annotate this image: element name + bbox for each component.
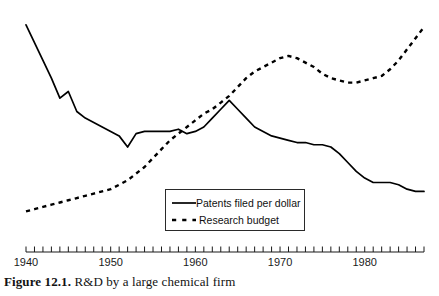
- x-axis-tick-label: 1950: [98, 256, 122, 268]
- figure-container: 19401950196019701980 Patents filed per d…: [0, 0, 439, 296]
- x-axis-tick-label: 1940: [14, 256, 38, 268]
- x-axis-tick-label: 1970: [268, 256, 292, 268]
- legend-label-research-budget: Research budget: [199, 214, 279, 226]
- chart-legend: Patents filed per dollar Research budget: [166, 190, 305, 231]
- x-axis-ticks: [26, 247, 424, 253]
- x-axis: [26, 247, 424, 253]
- figure-caption-number: Figure 12.1.: [4, 274, 71, 289]
- x-axis-tick-label: 1960: [183, 256, 207, 268]
- chart-plot-area: 19401950196019701980 Patents filed per d…: [0, 0, 439, 268]
- x-axis-tick-label: 1980: [352, 256, 376, 268]
- legend-label-patents-filed-per-dollar: Patents filed per dollar: [196, 197, 301, 209]
- figure-caption: Figure 12.1. R&D by a large chemical fir…: [4, 274, 434, 290]
- series-line-patents-filed-per-dollar: [26, 25, 424, 192]
- figure-caption-text: R&D by a large chemical firm: [74, 274, 235, 289]
- x-axis-tick-labels: 19401950196019701980: [14, 256, 377, 268]
